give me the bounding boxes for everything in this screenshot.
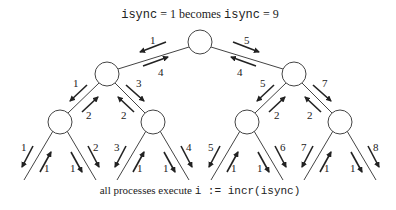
- tree-edges: [24, 47, 376, 180]
- title-text-after: = 9: [260, 7, 279, 21]
- label-l1r-right-down: 7: [322, 77, 328, 89]
- label-leaf-3-down: 3: [114, 141, 120, 153]
- title: isync = 1 becomes isync = 9: [121, 7, 279, 22]
- node-root: [188, 30, 212, 54]
- label-leaf-8-down: 8: [373, 141, 379, 153]
- label-leaf-7-up: 1: [324, 162, 330, 174]
- label-leaf-5-down: 5: [208, 141, 214, 153]
- label-leaf-6-down: 6: [280, 141, 286, 153]
- label-leaf-7-down: 7: [301, 141, 307, 153]
- label-leaf-2-up: 1: [70, 162, 76, 174]
- title-var-before: isync: [121, 8, 157, 22]
- label-leaf-3-up: 1: [137, 162, 143, 174]
- label-leaf-4-down: 4: [186, 141, 192, 153]
- node-l2-3: [328, 110, 352, 134]
- node-l1-right: [282, 62, 306, 86]
- label-leaf-4-up: 1: [163, 162, 169, 174]
- title-text-before: = 1 becomes: [157, 7, 224, 21]
- label-leaf-1-down: 1: [21, 141, 27, 153]
- label-leaf-8-up: 1: [350, 162, 356, 174]
- label-leaf-5-up: 1: [231, 162, 237, 174]
- label-root-right-down: 5: [244, 34, 250, 46]
- title-var-after: isync: [224, 8, 260, 22]
- caption-code: i := incr(isync): [195, 185, 301, 197]
- label-l1r-left-down: 5: [260, 77, 266, 89]
- label-l1r-left-up: 2: [274, 109, 280, 121]
- node-l2-2: [235, 110, 259, 134]
- edge-labels: 1 4 5 4 1 2 3 2 5 2 7 2 1 2 3 4 5 6 7 8 …: [21, 34, 379, 174]
- caption-text: all processes execute: [100, 184, 195, 196]
- edge-root-right: [211, 47, 283, 69]
- label-l1l-left-up: 2: [86, 109, 92, 121]
- label-l1l-left-down: 1: [73, 77, 79, 89]
- node-l1-left: [95, 62, 119, 86]
- combining-tree-diagram: isync = 1 becomes isync = 9: [0, 0, 396, 210]
- label-l1r-right-up: 2: [307, 109, 313, 121]
- edge-root-left: [118, 47, 189, 69]
- label-leaf-2-down: 2: [93, 141, 99, 153]
- label-l1l-right-down: 3: [136, 77, 142, 89]
- arrow-root-left-up: [143, 57, 168, 66]
- label-leaf-1-up: 1: [44, 162, 50, 174]
- label-root-right-up: 4: [237, 66, 243, 78]
- label-l1l-right-up: 2: [121, 109, 127, 121]
- label-leaf-6-up: 1: [257, 162, 263, 174]
- label-root-left-down: 1: [150, 34, 156, 46]
- label-root-left-up: 4: [158, 66, 164, 78]
- arrow-root-right-up: [231, 57, 256, 66]
- caption: all processes execute i := incr(isync): [100, 184, 301, 197]
- node-l2-0: [48, 110, 72, 134]
- node-l2-1: [141, 110, 165, 134]
